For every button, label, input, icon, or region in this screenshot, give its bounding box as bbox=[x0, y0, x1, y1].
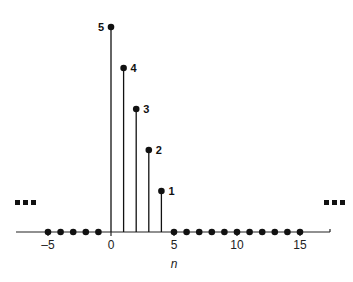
value-label: 4 bbox=[131, 62, 138, 74]
stem-marker bbox=[83, 229, 90, 236]
stem-marker bbox=[108, 24, 115, 31]
stem-marker bbox=[209, 229, 216, 236]
stem-marker bbox=[146, 147, 153, 154]
right-continuation-ellipsis bbox=[324, 200, 345, 205]
value-label: 3 bbox=[143, 103, 149, 115]
stem-marker bbox=[57, 229, 64, 236]
x-tick-label: 10 bbox=[230, 238, 244, 252]
x-tick-label: 0 bbox=[108, 238, 115, 252]
stem-marker bbox=[171, 229, 178, 236]
x-tick-label: 5 bbox=[171, 238, 178, 252]
stem-marker bbox=[272, 229, 279, 236]
stems bbox=[45, 24, 304, 236]
stem-marker bbox=[95, 229, 102, 236]
stem-marker bbox=[234, 229, 241, 236]
stem-marker bbox=[45, 229, 52, 236]
stem-marker bbox=[133, 106, 140, 113]
stem-marker bbox=[297, 229, 304, 236]
stem-marker bbox=[284, 229, 291, 236]
x-axis-label: n bbox=[171, 257, 178, 271]
stem-marker bbox=[183, 229, 190, 236]
stem-marker bbox=[158, 188, 165, 195]
stem-plot: –5051015 54321 n bbox=[0, 0, 353, 282]
stem-marker bbox=[259, 229, 266, 236]
stem-marker bbox=[196, 229, 203, 236]
x-tick-label: –5 bbox=[41, 238, 55, 252]
left-continuation-ellipsis bbox=[15, 200, 36, 205]
stem-marker bbox=[70, 229, 77, 236]
value-label: 1 bbox=[168, 185, 174, 197]
value-label: 2 bbox=[156, 144, 162, 156]
x-tick-label: 15 bbox=[293, 238, 307, 252]
stem-marker bbox=[120, 65, 127, 72]
stem-marker bbox=[246, 229, 253, 236]
value-label: 5 bbox=[98, 21, 104, 33]
stem-marker bbox=[221, 229, 228, 236]
